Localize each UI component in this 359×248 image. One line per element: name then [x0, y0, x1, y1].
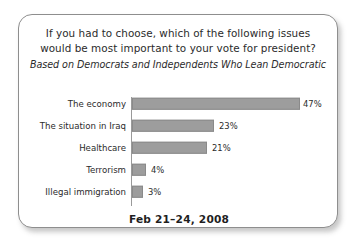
bar-row: The economy 47%	[19, 93, 339, 114]
poll-result-card: If you had to choose, which of the follo…	[18, 14, 338, 228]
bar-rect	[132, 141, 207, 154]
chart-title-block: If you had to choose, which of the follo…	[19, 15, 337, 72]
bar-value-label: 21%	[212, 143, 231, 153]
bar-category-label: The economy	[68, 99, 126, 109]
bar-category-label: The situation in Iraq	[40, 121, 126, 131]
bar-row: Illegal immigration 3%	[19, 181, 339, 202]
bar-category-label: Terrorism	[86, 165, 126, 175]
survey-date-footer: Feb 21–24, 2008	[19, 213, 339, 225]
bar-chart-plot: The economy 47% The situation in Iraq 23…	[19, 93, 339, 209]
bar-value-label: 4%	[151, 165, 164, 175]
bar-category-label: Healthcare	[79, 143, 126, 153]
bar-row: Healthcare 21%	[19, 137, 339, 158]
bar-value-label: 47%	[303, 99, 322, 109]
chart-title-line-2: would be most important to your vote for…	[19, 41, 337, 56]
bar-rect	[132, 185, 143, 198]
bar-row: The situation in Iraq 23%	[19, 115, 339, 136]
bar-rect	[132, 119, 214, 132]
bar-row: Terrorism 4%	[19, 159, 339, 180]
bar-value-label: 3%	[148, 187, 161, 197]
chart-title-line-1: If you had to choose, which of the follo…	[19, 26, 337, 41]
bar-category-label: Illegal immigration	[45, 187, 126, 197]
bar-rect	[132, 97, 300, 110]
bar-value-label: 23%	[219, 121, 238, 131]
bar-rect	[132, 163, 146, 176]
chart-subtitle: Based on Democrats and Independents Who …	[19, 57, 337, 72]
